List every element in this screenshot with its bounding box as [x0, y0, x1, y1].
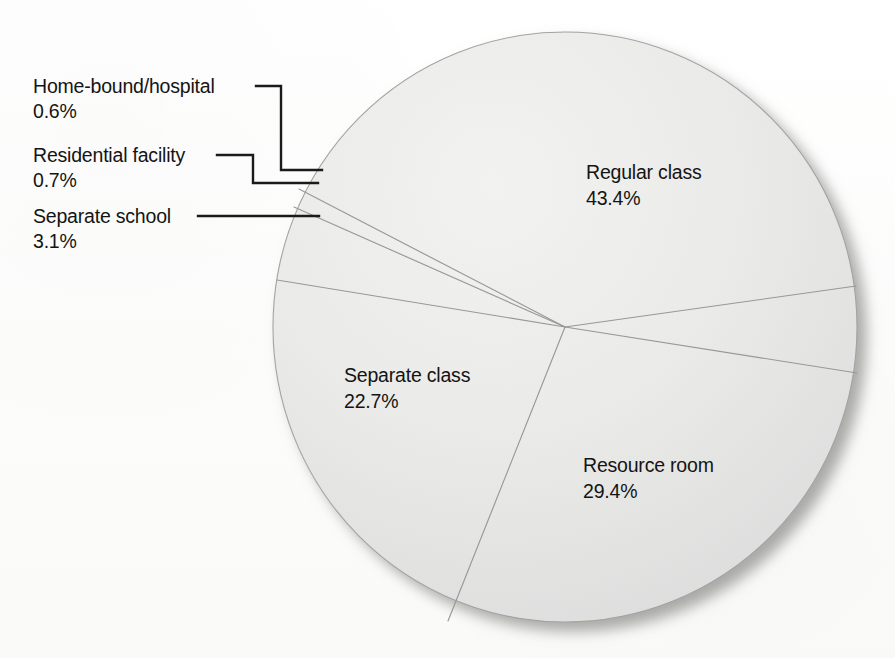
slice-label-text: Regular class	[586, 161, 702, 183]
slice-label-text: Separate class	[344, 364, 470, 386]
callout-home-bound-hospital: Home-bound/hospital 0.6%	[33, 74, 215, 124]
callout-label-text: Separate school	[33, 205, 171, 227]
slice-value-text: 43.4%	[586, 185, 702, 211]
slice-label-text: Resource room	[583, 454, 714, 476]
callout-separate-school: Separate school 3.1%	[33, 204, 171, 254]
leader-line-home-bound-hospital	[256, 86, 322, 170]
callout-value-text: 3.1%	[33, 229, 171, 254]
callout-value-text: 0.6%	[33, 99, 215, 124]
callout-label-text: Residential facility	[33, 144, 185, 166]
slice-value-text: 22.7%	[344, 388, 470, 414]
slice-label-regular-class: Regular class 43.4%	[586, 159, 702, 211]
slice-label-resource-room: Resource room 29.4%	[583, 452, 714, 504]
callout-label-text: Home-bound/hospital	[33, 75, 215, 97]
callout-residential-facility: Residential facility 0.7%	[33, 143, 185, 193]
callout-value-text: 0.7%	[33, 168, 185, 193]
slice-label-separate-class: Separate class 22.7%	[344, 362, 470, 414]
slice-value-text: 29.4%	[583, 478, 714, 504]
pie-chart-figure: Home-bound/hospital 0.6% Residential fac…	[0, 0, 895, 658]
